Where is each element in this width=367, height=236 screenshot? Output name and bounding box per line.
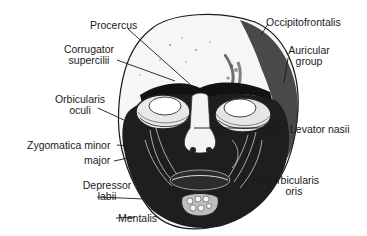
label-auricular-group: Auricular group xyxy=(284,45,334,67)
mouth-orbicularis-oris xyxy=(170,170,230,190)
label-depressor-labii: Depressor labii xyxy=(80,180,134,202)
label-corrugator-supercilii: Corrugator supercilii xyxy=(62,44,116,66)
anatomy-diagram: Procercus Corrugator supercilii Orbicula… xyxy=(0,0,367,236)
label-orbicularis-oculi: Orbicularis oculi xyxy=(52,94,108,116)
label-corrugator-line2: supercilii xyxy=(62,55,116,66)
label-levator-nasii: Levator nasii xyxy=(290,124,350,135)
label-mentalis: Mentalis xyxy=(118,213,157,224)
label-zygomatica-major: major xyxy=(84,155,110,166)
face-muscle-illustration xyxy=(0,0,367,236)
label-procercus: Procercus xyxy=(90,20,137,31)
label-depressor-line2: labii xyxy=(80,191,134,202)
label-occipitofrontalis: Occipitofrontalis xyxy=(266,17,341,28)
label-orbicularis-oculi-line2: oculi xyxy=(52,105,108,116)
label-orbicularis-oris: Orbicularis oris xyxy=(266,175,322,197)
label-auricular-line2: group xyxy=(284,56,334,67)
label-zygomatica-minor: Zygomatica minor xyxy=(27,140,110,151)
label-orbicularis-oris-line2: oris xyxy=(266,186,322,197)
